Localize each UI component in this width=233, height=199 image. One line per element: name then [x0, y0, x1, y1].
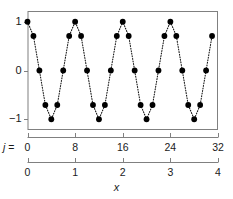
x-tick-label: 4 [198, 167, 233, 178]
y-tick-label: −1 [9, 113, 22, 124]
data-point [132, 68, 138, 74]
x-tick-label: 1 [55, 167, 95, 178]
x-tick-label: 0 [8, 167, 48, 178]
data-point [66, 33, 72, 39]
data-point [197, 102, 203, 108]
data-point [114, 33, 120, 39]
x-tick-label: 3 [150, 167, 190, 178]
data-point [173, 33, 179, 39]
data-point [90, 102, 96, 108]
data-point [156, 68, 162, 74]
data-point [108, 68, 114, 74]
y-tick-label: 0 [15, 65, 21, 76]
data-point [144, 116, 150, 122]
data-point [126, 33, 132, 39]
data-point [25, 19, 31, 25]
data-point [138, 102, 144, 108]
data-point [72, 19, 78, 25]
data-point [191, 116, 197, 122]
j-axis-label-symbol: j [3, 141, 5, 153]
chart-figure: 10−1j =0816243201234x [0, 0, 233, 199]
y-tick-label: 1 [15, 16, 21, 27]
data-point [150, 102, 156, 108]
x-axis [28, 158, 219, 163]
data-point [179, 68, 185, 74]
j-tick-label: 24 [150, 142, 190, 153]
data-point [84, 68, 90, 74]
y-axis-ticks [24, 23, 28, 120]
data-point [54, 102, 60, 108]
data-point [42, 102, 48, 108]
data-point [185, 102, 191, 108]
x-tick-label: 2 [103, 167, 143, 178]
data-point [102, 102, 108, 108]
j-axis [28, 133, 219, 138]
data-point [162, 33, 168, 39]
j-tick-label: 0 [8, 142, 48, 153]
data-point [31, 33, 37, 39]
data-point [209, 33, 215, 39]
data-point [37, 68, 43, 74]
data-point [78, 33, 84, 39]
x-axis-title: x [0, 182, 233, 193]
data-point [96, 116, 102, 122]
j-tick-label: 16 [103, 142, 143, 153]
data-point [60, 68, 66, 74]
data-point [48, 116, 54, 122]
j-tick-label: 32 [198, 142, 233, 153]
data-point [203, 68, 209, 74]
data-point [120, 19, 126, 25]
plot-background [28, 11, 219, 130]
j-tick-label: 8 [55, 142, 95, 153]
data-point [167, 19, 173, 25]
